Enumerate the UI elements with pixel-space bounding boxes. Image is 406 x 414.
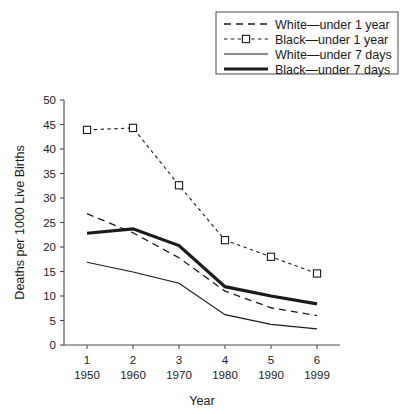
series-marker: [83, 126, 90, 133]
x-axis-tick-label-index: 5: [268, 354, 274, 366]
x-axis-tick-label-index: 6: [314, 354, 320, 366]
x-axis-tick-label-year: 1950: [74, 369, 100, 381]
y-axis-tick-label: 40: [43, 143, 56, 155]
legend-entry-label: White—under 1 year: [275, 18, 390, 32]
x-axis-tick-label-year: 1990: [258, 369, 284, 381]
x-axis-title: Year: [189, 394, 214, 408]
chart-axes: [64, 100, 340, 345]
x-axis-tick-label-year: 1960: [120, 369, 146, 381]
series-marker: [313, 270, 320, 277]
y-axis-tick-label: 0: [50, 339, 56, 351]
chart-canvas: 0510152025303540455011950219603197041980…: [0, 0, 406, 414]
x-axis-tick-label-index: 2: [130, 354, 136, 366]
x-axis-tick-label-index: 3: [176, 354, 182, 366]
series-marker: [175, 182, 182, 189]
y-axis-tick-label: 45: [43, 119, 56, 131]
x-axis-tick-label-year: 1980: [212, 369, 238, 381]
series-marker: [129, 124, 136, 131]
y-axis-tick-label: 50: [43, 94, 56, 106]
x-axis-tick-label-index: 4: [222, 354, 229, 366]
x-axis-tick-label-year: 1970: [166, 369, 192, 381]
series-marker: [267, 253, 274, 260]
y-axis-tick-label: 25: [43, 217, 56, 229]
series-line: [87, 262, 317, 329]
x-axis-tick-label-year: 1999: [304, 369, 330, 381]
series-line: [87, 229, 317, 304]
y-axis-tick-label: 10: [43, 290, 56, 302]
series-line: [87, 128, 317, 274]
y-axis-title: Deaths per 1000 Live Births: [13, 145, 27, 299]
x-axis-tick-label-index: 1: [84, 354, 90, 366]
line-chart-figure: 0510152025303540455011950219603197041980…: [0, 0, 406, 414]
y-axis-tick-label: 5: [50, 315, 56, 327]
legend-entry-label: Black—under 7 days: [275, 63, 390, 77]
y-axis-tick-label: 15: [43, 266, 56, 278]
y-axis-tick-label: 30: [43, 192, 56, 204]
legend-entry-label: White—under 7 days: [275, 48, 392, 62]
series-marker: [221, 237, 228, 244]
y-axis-tick-label: 20: [43, 241, 56, 253]
legend-marker-sample: [242, 35, 249, 42]
y-axis-tick-label: 35: [43, 168, 56, 180]
legend-entry-label: Black—under 1 year: [275, 33, 388, 47]
